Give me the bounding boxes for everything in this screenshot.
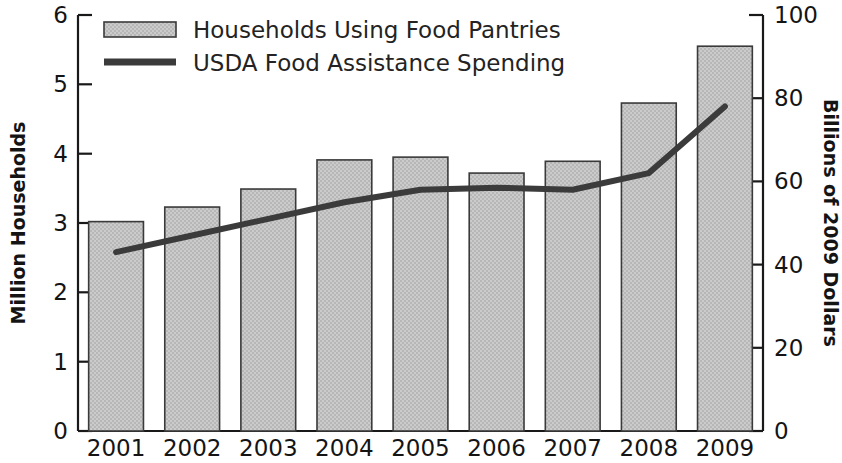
legend-label-line: USDA Food Assistance Spending xyxy=(193,50,565,76)
right-tick-label-60: 60 xyxy=(774,168,803,194)
bar-2007 xyxy=(545,161,600,431)
legend-label-bars: Households Using Food Pantries xyxy=(193,17,561,43)
bar-2005 xyxy=(393,157,448,431)
bar-2008 xyxy=(621,103,676,431)
left-tick-label-2: 2 xyxy=(53,279,68,305)
right-tick-label-100: 100 xyxy=(774,2,818,28)
left-axis-title: Million Households xyxy=(7,122,29,325)
chart-container: 6 5 4 3 2 1 0 Million Households 100 80 … xyxy=(0,0,842,463)
x-tick-label-2001: 2001 xyxy=(87,435,146,461)
left-tick-label-1: 1 xyxy=(53,349,68,375)
chart-svg: 6 5 4 3 2 1 0 Million Households 100 80 … xyxy=(0,0,842,463)
x-tick-label-2009: 2009 xyxy=(696,435,755,461)
right-axis-title: Billions of 2009 Dollars xyxy=(820,99,842,347)
x-tick-label-2006: 2006 xyxy=(467,435,526,461)
x-tick-label-2003: 2003 xyxy=(239,435,298,461)
x-tick-label-2004: 2004 xyxy=(315,435,374,461)
x-tick-label-2007: 2007 xyxy=(543,435,602,461)
right-tick-label-80: 80 xyxy=(774,85,803,111)
right-tick-label-0: 0 xyxy=(774,418,789,444)
right-tick-label-20: 20 xyxy=(774,335,803,361)
left-tick-label-5: 5 xyxy=(53,71,68,97)
x-tick-label-2005: 2005 xyxy=(391,435,450,461)
left-tick-label-4: 4 xyxy=(53,141,68,167)
left-tick-label-3: 3 xyxy=(53,210,68,236)
x-axis-tick-labels: 200120022003200420052006200720082009 xyxy=(87,435,754,461)
left-tick-label-6: 6 xyxy=(53,2,68,28)
legend-bar-swatch-icon xyxy=(104,22,176,37)
x-tick-label-2002: 2002 xyxy=(163,435,222,461)
right-tick-label-40: 40 xyxy=(774,252,803,278)
bar-2006 xyxy=(469,173,524,431)
x-tick-label-2008: 2008 xyxy=(620,435,679,461)
left-tick-label-0: 0 xyxy=(53,418,68,444)
